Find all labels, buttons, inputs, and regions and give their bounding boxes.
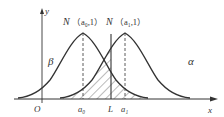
curve-label-null: N （a₀,1）	[62, 16, 103, 27]
svg-text:N: N	[62, 16, 71, 27]
normal-distribution-diagram: y x O N （a₀,1） N （a₁,1） a₀ L a₁ β α	[0, 0, 224, 117]
threshold-label-L: L	[107, 104, 113, 114]
svg-text:（a₁,1）: （a₁,1）	[115, 17, 146, 27]
y-axis-label: y	[44, 6, 49, 16]
mean-label-a1: a₁	[121, 104, 128, 114]
region-label-beta: β	[47, 55, 54, 67]
x-axis-label: x	[207, 105, 212, 115]
svg-text:N: N	[105, 16, 114, 27]
region-label-alpha: α	[188, 55, 194, 67]
mean-label-a0: a₀	[78, 104, 85, 114]
origin-label: O	[34, 104, 41, 114]
curve-label-alternative: N （a₁,1）	[105, 16, 146, 27]
svg-text:（a₀,1）: （a₀,1）	[72, 17, 103, 27]
